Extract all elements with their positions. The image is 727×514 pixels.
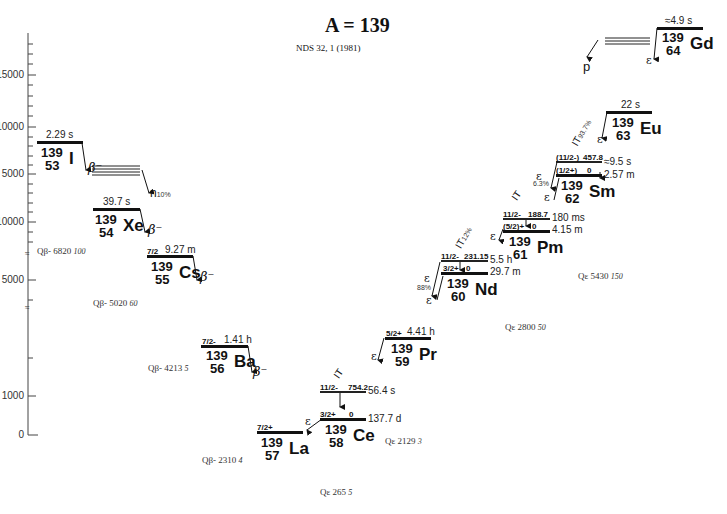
axis-tick: 0: [0, 429, 24, 440]
axis-tick: 5000: [0, 168, 24, 179]
axis-tick: 15000: [0, 69, 24, 80]
axis-tick: 10000: [0, 121, 24, 132]
axis-tick: 5000: [0, 274, 24, 285]
svg-text:≈: ≈: [25, 303, 30, 312]
svg-text:≈: ≈: [25, 249, 30, 258]
axis-tick: 1000: [0, 390, 24, 401]
axis-tick: 10000: [0, 216, 24, 227]
